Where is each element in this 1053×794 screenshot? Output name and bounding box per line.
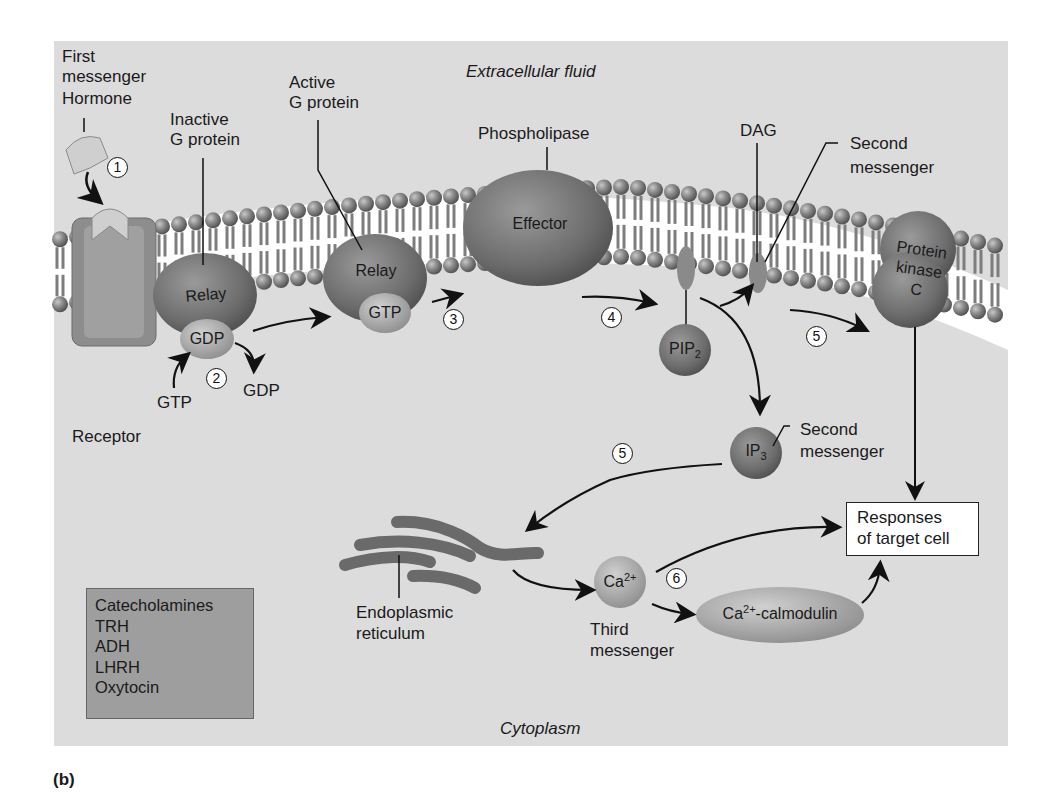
- step-6: 6: [666, 568, 687, 589]
- label-er-2: reticulum: [356, 624, 425, 644]
- label-second-ip3-1: Second: [800, 420, 858, 440]
- text-relay-active: Relay: [348, 262, 404, 280]
- label-inactive-gprotein: G protein: [170, 130, 240, 150]
- responses-line-1: Responses: [857, 507, 978, 528]
- responses-box: Responses of target cell: [846, 502, 979, 556]
- region-extracellular: Extracellular fluid: [466, 62, 595, 82]
- label-third-2: messenger: [590, 641, 674, 661]
- text-ca: Ca2+: [600, 571, 640, 591]
- hormone-ligand: [66, 137, 108, 175]
- label-active-gprotein: G protein: [289, 93, 359, 113]
- hormone-list-box: Catecholamines TRH ADH LHRH Oxytocin: [86, 588, 254, 719]
- label-gdp-out: GDP: [243, 381, 280, 401]
- text-gdp-bound: GDP: [184, 330, 230, 348]
- label-second-top-2: messenger: [850, 158, 934, 178]
- step-2: 2: [206, 368, 227, 389]
- label-third-1: Third: [590, 620, 629, 640]
- label-er-1: Endoplasmic: [356, 603, 453, 623]
- step-5b: 5: [612, 443, 633, 464]
- step-5a: 5: [806, 326, 827, 347]
- label-dag: DAG: [740, 121, 777, 141]
- text-effector: Effector: [502, 215, 578, 233]
- endoplasmic-reticulum: [345, 522, 538, 588]
- hormone-item: LHRH: [95, 657, 253, 678]
- text-pkc: ProteinkinaseC: [884, 236, 954, 304]
- label-messenger: messenger: [62, 67, 146, 87]
- text-ca-calmodulin: Ca2+-calmodulin: [700, 603, 860, 623]
- label-receptor: Receptor: [72, 427, 141, 447]
- hormone-item: TRH: [95, 616, 253, 637]
- step-1: 1: [107, 157, 128, 178]
- region-cytoplasm: Cytoplasm: [500, 719, 580, 739]
- label-active: Active: [289, 73, 335, 93]
- label-second-ip3-2: messenger: [800, 442, 884, 462]
- step-4: 4: [601, 307, 622, 328]
- text-ip3: IP3: [738, 442, 774, 462]
- label-phospholipase: Phospholipase: [478, 124, 590, 144]
- step-3: 3: [443, 309, 464, 330]
- text-pip2: PIP2: [665, 340, 705, 360]
- label-inactive: Inactive: [170, 110, 229, 130]
- receptor-protein: [72, 209, 156, 346]
- panel-letter: (b): [53, 770, 75, 790]
- hormone-item: ADH: [95, 636, 253, 657]
- hormone-item: Catecholamines: [95, 595, 253, 616]
- responses-line-2: of target cell: [857, 528, 978, 549]
- label-gtp-in: GTP: [157, 393, 192, 413]
- label-first: First: [62, 47, 95, 67]
- dag: [749, 253, 767, 293]
- label-hormone: Hormone: [62, 89, 132, 109]
- hormone-item: Oxytocin: [95, 677, 253, 698]
- label-second-top-1: Second: [850, 134, 908, 154]
- text-gtp-bound: GTP: [362, 304, 408, 322]
